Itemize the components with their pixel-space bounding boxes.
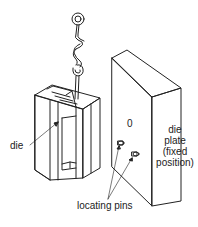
die-plate-label-line2: plate — [153, 135, 197, 146]
locating-pins-icon — [108, 141, 139, 199]
diagram-drawing — [0, 0, 198, 227]
die-plate-label-line4: position) — [153, 157, 197, 168]
hole-marker-label: 0 — [127, 118, 133, 129]
locating-pins-label: locating pins — [77, 200, 133, 211]
die-plate-label: die plate (fixed position) — [153, 124, 197, 168]
diagram-canvas: die 0 die plate (fixed position) locatin… — [0, 0, 198, 227]
die-plate-label-line3: (fixed — [153, 146, 197, 157]
die-label: die — [10, 140, 23, 151]
die-plate-label-line1: die — [153, 124, 197, 135]
die-block — [30, 85, 100, 180]
hook-icon — [72, 13, 84, 99]
